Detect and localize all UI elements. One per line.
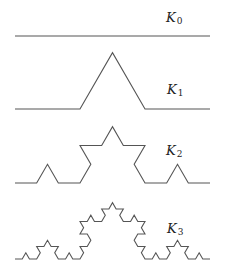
curve-k1: K1: [15, 53, 210, 109]
label-k0: K0: [165, 10, 183, 26]
curve-k2: K2: [15, 127, 210, 183]
label-k2: K2: [165, 143, 182, 159]
label-k3: K3: [166, 221, 184, 237]
koch-curve-diagram: K0 K1 K2 K3: [0, 0, 225, 278]
label-k1: K1: [166, 82, 183, 98]
curve-k3: K3: [15, 203, 210, 259]
koch-curve-k1-path: [15, 53, 210, 109]
curve-k0: K0: [15, 10, 210, 36]
